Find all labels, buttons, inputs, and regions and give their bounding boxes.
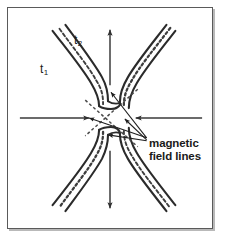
- annotation-line-2: field lines: [149, 151, 201, 163]
- label-t2-sub: 2: [78, 39, 82, 48]
- neutral-point-region: [99, 101, 120, 135]
- diagram-canvas: t1 t2 magnetic field lines: [8, 8, 212, 228]
- bundle-lower-left: [53, 130, 108, 211]
- label-t1: t1: [40, 63, 48, 75]
- label-t1-sub: 1: [44, 68, 48, 77]
- label-t2-base: t: [74, 33, 77, 47]
- bundle-upper-right: [120, 25, 175, 108]
- label-t1-base: t: [40, 62, 43, 76]
- annotation-magnetic-field-lines: magnetic field lines: [149, 138, 201, 162]
- figure-frame: t1 t2 magnetic field lines: [7, 7, 213, 229]
- reconnection-diagram-svg: [8, 8, 212, 228]
- annotation-line-1: magnetic: [149, 137, 199, 149]
- label-t2: t2: [74, 34, 82, 46]
